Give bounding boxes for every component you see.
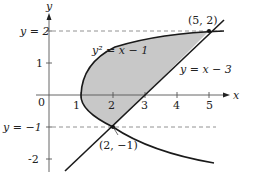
x-axis-arrow-icon: [223, 93, 230, 98]
x-tick-label-2: 2: [108, 99, 115, 112]
y-axis-arrow-icon: [47, 13, 52, 20]
y-tick-label-m2: -2: [28, 153, 39, 166]
region-diagram: y x 0 1 2 3 4 5 1 -2 y = 2 y = −1 y² = x…: [0, 0, 265, 185]
parabola-label: y² = x − 1: [91, 44, 148, 57]
x-axis-label: x: [233, 89, 240, 102]
x-tick-label-5: 5: [206, 99, 213, 112]
x-tick-label-1: 1: [73, 99, 80, 112]
point-top-label: (5, 2): [188, 14, 218, 27]
x-tick-label-4: 4: [173, 99, 180, 112]
y-axis-label: y: [45, 0, 53, 13]
point-top: [207, 29, 211, 33]
y-tick-label-1: 1: [36, 57, 43, 70]
origin-label: 0: [38, 96, 45, 109]
guide-label-ym1: y = −1: [2, 121, 42, 134]
guide-label-y2: y = 2: [19, 25, 49, 38]
line-label: y = x − 3: [179, 63, 232, 76]
point-bottom-label: (2, −1): [99, 139, 138, 152]
x-tick-label-3: 3: [141, 99, 148, 112]
